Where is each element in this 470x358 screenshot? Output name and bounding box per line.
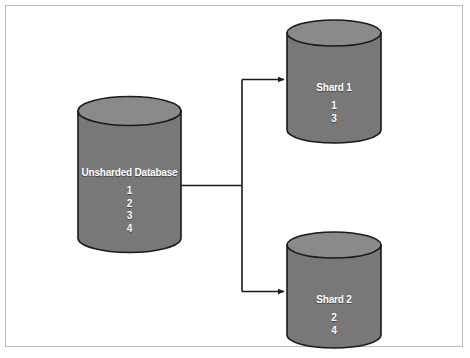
shard-1-items: 1 3 — [287, 100, 381, 125]
source-item: 3 — [78, 210, 181, 223]
shard-1-item: 3 — [287, 113, 381, 126]
shard-2-item: 4 — [287, 325, 381, 338]
shard-2-item: 2 — [287, 312, 381, 325]
source-cylinder-title: Unsharded Database — [78, 167, 181, 178]
source-item: 2 — [78, 198, 181, 211]
shard-1-title: Shard 1 — [287, 82, 381, 93]
source-item: 1 — [78, 185, 181, 198]
shard-2-title: Shard 2 — [287, 294, 381, 305]
shard-2-items: 2 4 — [287, 312, 381, 337]
source-item: 4 — [78, 223, 181, 236]
shard-1-item: 1 — [287, 100, 381, 113]
diagram-graphics — [0, 0, 470, 358]
connector-lines — [181, 80, 284, 292]
diagram-canvas: Unsharded Database 1 2 3 4 Shard 1 1 3 S… — [0, 0, 470, 358]
source-cylinder-items: 1 2 3 4 — [78, 185, 181, 235]
